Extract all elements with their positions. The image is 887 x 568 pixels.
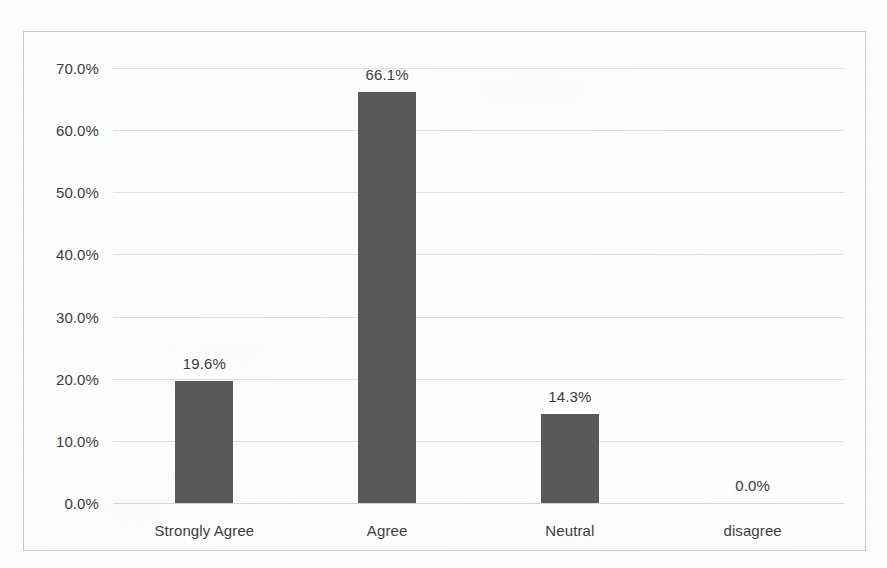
- y-axis-tick-label: 0.0%: [64, 495, 99, 512]
- y-axis-tick-label: 60.0%: [56, 122, 99, 139]
- y-axis-tick-label: 10.0%: [56, 432, 99, 449]
- y-axis-tick-label: 20.0%: [56, 370, 99, 387]
- bar-value-label: 14.3%: [548, 388, 591, 405]
- x-axis-category-label: disagree: [661, 522, 844, 539]
- bar-group: 19.6%: [113, 42, 296, 512]
- chart-frame: 0.0%10.0%20.0%30.0%40.0%50.0%60.0%70.0%1…: [23, 31, 866, 551]
- bar-group: 66.1%: [296, 42, 479, 512]
- bar-group: 0.0%: [661, 42, 844, 512]
- bar[interactable]: [358, 92, 416, 503]
- y-axis-tick-label: 30.0%: [56, 308, 99, 325]
- bar-value-label: 66.1%: [366, 66, 409, 83]
- bar-value-label: 0.0%: [735, 477, 770, 494]
- y-axis-tick-label: 70.0%: [56, 60, 99, 77]
- bar-group: 14.3%: [479, 42, 662, 512]
- y-axis-tick-label: 40.0%: [56, 246, 99, 263]
- x-axis-category-label: Agree: [296, 522, 479, 539]
- x-axis-category-label: Strongly Agree: [113, 522, 296, 539]
- category-axis: Strongly AgreeAgreeNeutraldisagree: [113, 522, 844, 556]
- y-axis-tick-label: 50.0%: [56, 184, 99, 201]
- x-axis-category-label: Neutral: [479, 522, 662, 539]
- scanned-page-background: 0.0%10.0%20.0%30.0%40.0%50.0%60.0%70.0%1…: [0, 0, 887, 568]
- bar[interactable]: [541, 414, 599, 503]
- plot-area: 0.0%10.0%20.0%30.0%40.0%50.0%60.0%70.0%1…: [113, 42, 844, 512]
- bar-value-label: 19.6%: [183, 355, 226, 372]
- bar[interactable]: [175, 381, 233, 503]
